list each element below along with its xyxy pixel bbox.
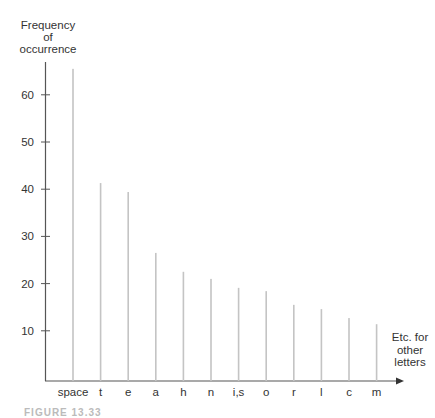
x-axis-arrowhead bbox=[396, 378, 404, 385]
x-tick-label: m bbox=[357, 386, 397, 398]
bar bbox=[293, 305, 295, 381]
bar bbox=[100, 183, 102, 381]
bars bbox=[72, 69, 377, 381]
bar bbox=[321, 309, 323, 381]
annotation-line-3: letters bbox=[385, 356, 435, 369]
figure-caption: FIGURE 13.33 bbox=[24, 407, 102, 418]
annotation-line-1: Etc. for bbox=[385, 331, 435, 344]
bar bbox=[183, 272, 185, 381]
bar bbox=[376, 324, 378, 381]
bar bbox=[238, 288, 240, 381]
bar bbox=[265, 291, 267, 381]
bar bbox=[348, 318, 350, 381]
bar bbox=[72, 69, 74, 381]
bar bbox=[127, 192, 129, 381]
bar bbox=[155, 253, 157, 381]
annotation-line-2: other bbox=[385, 344, 435, 357]
bar bbox=[210, 279, 212, 381]
other-letters-annotation: Etc. for other letters bbox=[385, 331, 435, 369]
